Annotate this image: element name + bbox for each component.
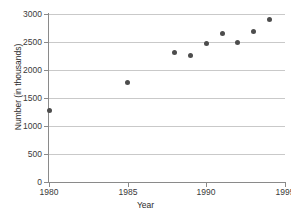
y-tick-label-wrap-0: 0 bbox=[0, 178, 42, 187]
x-tick-label-1985: 1985 bbox=[108, 188, 148, 197]
y-tick-label-2500: 2500 bbox=[23, 38, 42, 47]
gridline-y-2000 bbox=[49, 70, 285, 71]
y-tick-mark-2500 bbox=[44, 42, 49, 43]
y-tick-label-2000: 2000 bbox=[23, 66, 42, 75]
y-tick-mark-500 bbox=[44, 154, 49, 155]
data-point bbox=[47, 108, 52, 113]
data-point bbox=[172, 50, 177, 55]
data-point bbox=[267, 17, 272, 22]
y-tick-mark-1500 bbox=[44, 98, 49, 99]
gridline-y-2500 bbox=[49, 42, 285, 43]
gridline-y-1000 bbox=[49, 126, 285, 127]
y-tick-mark-3000 bbox=[44, 14, 49, 15]
x-tick-label-1995: 1995 bbox=[265, 188, 291, 197]
x-tick-label-1990: 1990 bbox=[186, 188, 226, 197]
gridline-y-3000 bbox=[49, 14, 285, 15]
scatter-chart: 050010001500200025003000 198019851990199… bbox=[0, 0, 291, 216]
y-tick-label-1500: 1500 bbox=[23, 94, 42, 103]
gridline-y-1500 bbox=[49, 98, 285, 99]
data-point bbox=[188, 53, 193, 58]
y-tick-label-500: 500 bbox=[28, 150, 42, 159]
y-tick-mark-1000 bbox=[44, 126, 49, 127]
data-point bbox=[204, 41, 209, 46]
x-axis-line bbox=[48, 182, 286, 183]
y-tick-label-0: 0 bbox=[37, 178, 42, 187]
data-point bbox=[220, 31, 225, 36]
y-tick-mark-2000 bbox=[44, 70, 49, 71]
y-tick-label-1000: 1000 bbox=[23, 122, 42, 131]
x-axis-title: Year bbox=[0, 200, 291, 210]
x-tick-label-1980: 1980 bbox=[29, 188, 69, 197]
data-point bbox=[235, 40, 240, 45]
data-point bbox=[251, 29, 256, 34]
gridline-y-500 bbox=[49, 154, 285, 155]
y-axis-title: Number (in thousands) bbox=[13, 17, 23, 157]
data-point bbox=[125, 80, 130, 85]
y-tick-label-3000: 3000 bbox=[23, 10, 42, 19]
